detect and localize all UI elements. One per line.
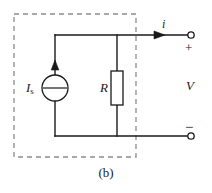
port-voltage-label: V	[186, 79, 194, 92]
port-current-arrow-icon	[154, 31, 165, 39]
terminal-positive-node	[188, 32, 194, 38]
terminal-positive-label: +	[185, 41, 192, 54]
current-source-label: Is	[26, 81, 34, 96]
port-current-label: i	[162, 18, 165, 30]
resistor-label: R	[100, 81, 108, 94]
circuit-figure: Is R i V + − (b)	[0, 0, 212, 193]
resistor-symbol	[111, 71, 123, 105]
terminal-negative-label: −	[185, 120, 193, 135]
figure-caption: (b)	[0, 166, 212, 179]
source-current-arrow-icon	[51, 60, 59, 70]
current-source-subscript: s	[30, 86, 33, 96]
